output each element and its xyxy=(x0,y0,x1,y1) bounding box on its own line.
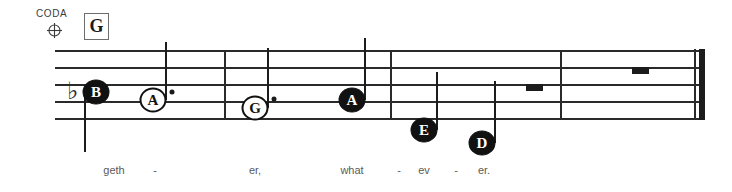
staff-line-1 xyxy=(55,50,705,52)
lyric-what: what xyxy=(340,164,363,176)
note-g-dotted-stem xyxy=(267,48,269,108)
coda-symbol xyxy=(46,22,63,39)
note-a-second[interactable]: A xyxy=(339,88,366,113)
note-a-dotted[interactable]: A xyxy=(140,88,167,113)
barline-3 xyxy=(560,50,562,118)
staff-line-2 xyxy=(55,67,705,69)
lyric-er-final: er. xyxy=(478,164,490,176)
note-b-flat[interactable]: B xyxy=(83,80,110,105)
note-e-stem xyxy=(436,72,438,130)
lyric-hyphen-2: - xyxy=(397,164,401,176)
note-d-stem xyxy=(494,81,496,143)
note-a-dotted-stem xyxy=(165,42,167,100)
coda-label: CODA xyxy=(36,8,67,19)
lyric-ev: ev xyxy=(418,164,430,176)
final-barline-thin xyxy=(694,49,696,120)
note-a-second-stem xyxy=(364,38,366,100)
coda-marking: CODA xyxy=(36,8,84,48)
staff-line-3 xyxy=(55,84,705,86)
note-g-dotted[interactable]: G xyxy=(242,96,269,121)
note-e[interactable]: E xyxy=(411,118,438,143)
lyric-er: er, xyxy=(249,164,261,176)
sheet-music-system: CODA G ♭BAGAEDgeth-er,what-ev-er. xyxy=(0,0,732,192)
lyric-hyphen-1: - xyxy=(153,164,157,176)
rest-half-1[interactable] xyxy=(526,84,543,91)
lyric-geth: geth xyxy=(103,164,124,176)
note-a-dotted-augmentation-dot xyxy=(170,90,175,95)
rest-half-2[interactable] xyxy=(632,67,649,74)
flat-sign: ♭ xyxy=(67,79,78,103)
note-d[interactable]: D xyxy=(469,131,496,156)
lyric-hyphen-3: - xyxy=(454,164,458,176)
staff-line-5 xyxy=(55,118,705,120)
barline-1 xyxy=(224,50,226,118)
final-barline-thick xyxy=(699,49,705,120)
note-b-flat-stem xyxy=(84,92,86,152)
barline-2 xyxy=(390,50,392,118)
note-g-dotted-augmentation-dot xyxy=(272,97,277,102)
rehearsal-mark-g[interactable]: G xyxy=(84,13,109,40)
